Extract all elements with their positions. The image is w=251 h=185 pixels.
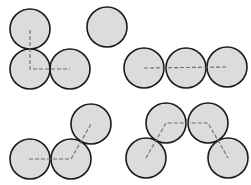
- group-L-shaped-trio: [10, 9, 90, 89]
- group-single-circle: [87, 7, 127, 47]
- circle: [71, 104, 111, 144]
- diagram-canvas: [0, 0, 251, 185]
- circle: [87, 7, 127, 47]
- group-arch-of-four: [126, 103, 248, 178]
- group-straight-row-of-three: [124, 47, 247, 88]
- group-bent-trio: [10, 104, 111, 179]
